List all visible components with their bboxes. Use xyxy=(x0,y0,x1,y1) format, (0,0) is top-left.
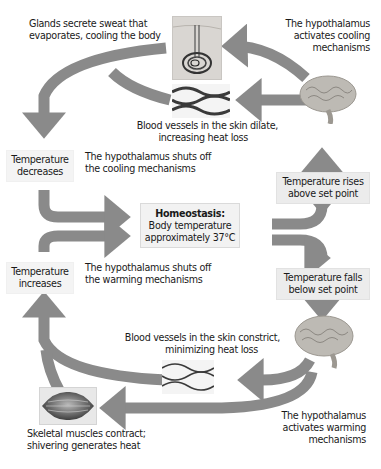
thermoregulation-diagram: Glands secrete sweat that evaporates, co… xyxy=(0,0,381,469)
text-line: The hypothalamus shuts off xyxy=(85,151,211,163)
text-line: mechanisms xyxy=(270,434,366,446)
arrow-decrease-to-center xyxy=(44,190,122,217)
arrow-center-to-fall xyxy=(272,240,322,258)
label-shut-off-warming: The hypothalamus shuts off the warming m… xyxy=(85,262,211,286)
text-line: Skeletal muscles contract; xyxy=(27,428,146,440)
text-line: Body temperature xyxy=(141,220,239,232)
text-line: mechanisms xyxy=(274,42,370,54)
brain-icon xyxy=(298,72,358,124)
text-line: increases xyxy=(7,278,73,290)
text-line: Temperature xyxy=(7,266,73,278)
brain-icon xyxy=(292,312,356,370)
text-line: the warming mechanisms xyxy=(85,274,211,286)
homeostasis-heading: Homeostasis: xyxy=(155,208,224,219)
blood-vessels-icon xyxy=(172,84,230,118)
text-line: approximately 37°C xyxy=(141,232,239,244)
sweat-gland-icon xyxy=(172,16,222,80)
text-line: above set point xyxy=(277,188,369,200)
text-line: Temperature rises xyxy=(277,176,369,188)
text-line: Glands secrete sweat that xyxy=(29,18,161,30)
text-line: shivering generates heat xyxy=(27,440,146,452)
muscle-icon xyxy=(39,387,97,425)
label-vessels-dilate: Blood vessels in the skin dilate, increa… xyxy=(108,120,278,144)
text-line: Blood vessels in the skin constrict, xyxy=(100,332,280,344)
label-hypothalamus-cooling: The hypothalamus activates cooling mecha… xyxy=(274,18,370,54)
label-hypothalamus-warming: The hypothalamus activates warming mecha… xyxy=(270,410,366,446)
text-line: activates cooling xyxy=(274,30,370,42)
text-line: The hypothalamus xyxy=(274,18,370,30)
response-temperature-increases: Temperature increases xyxy=(6,262,74,294)
text-line: minimizing heat loss xyxy=(100,344,280,356)
label-sweat-glands: Glands secrete sweat that evaporates, co… xyxy=(29,18,161,42)
text-line: The hypothalamus shuts off xyxy=(85,262,211,274)
text-line: Blood vessels in the skin dilate, xyxy=(108,120,278,132)
text-line: decreases xyxy=(7,166,73,178)
stimulus-temperature-falls: Temperature falls below set point xyxy=(276,268,370,300)
response-temperature-decreases: Temperature decreases xyxy=(6,150,74,182)
blood-vessels-icon xyxy=(162,360,214,394)
text-line: the cooling mechanisms xyxy=(85,163,211,175)
label-vessels-constrict: Blood vessels in the skin constrict, min… xyxy=(100,332,280,356)
text-line: The hypothalamus xyxy=(270,410,366,422)
arrow-vessels-join xyxy=(112,72,170,100)
text-line: below set point xyxy=(277,284,369,296)
arrow-increase-to-center xyxy=(44,236,122,252)
text-line: activates warming xyxy=(270,422,366,434)
stimulus-temperature-rises: Temperature rises above set point xyxy=(276,172,370,204)
arrow-center-to-rise xyxy=(272,205,322,224)
homeostasis-box: Homeostasis: Body temperature approximat… xyxy=(140,203,240,248)
label-skeletal-muscles: Skeletal muscles contract; shivering gen… xyxy=(27,428,146,452)
label-shut-off-cooling: The hypothalamus shuts off the cooling m… xyxy=(85,151,211,175)
text-line: evaporates, cooling the body xyxy=(29,30,161,42)
text-line: increasing heat loss xyxy=(108,132,278,144)
text-line: Temperature falls xyxy=(277,272,369,284)
text-line: Temperature xyxy=(7,154,73,166)
